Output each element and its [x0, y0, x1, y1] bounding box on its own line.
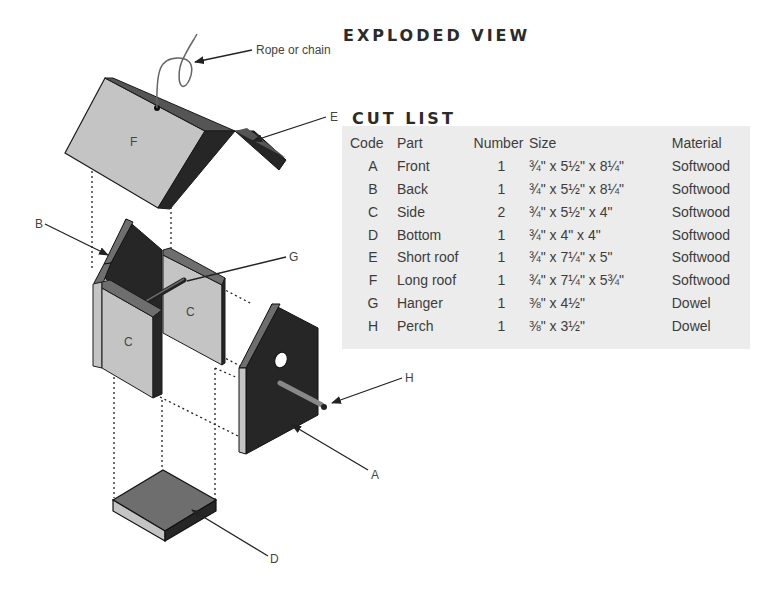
cell-code: E [350, 246, 396, 269]
cell-part: Back [396, 178, 474, 201]
cell-number: 2 [474, 200, 529, 223]
bottom-panel-D [113, 470, 216, 541]
header-code: Code [350, 132, 396, 155]
callout-A: A [371, 468, 379, 482]
header-size: Size [529, 132, 672, 155]
cut-list-table: Code Part Number Size Material A Front 1… [350, 132, 750, 337]
part-label-F: F [130, 135, 137, 149]
table-row: E Short roof 1 ¾" x 7¼" x 5" Softwood [350, 246, 750, 269]
part-label-C-back: C [186, 305, 195, 319]
cell-material: Dowel [672, 292, 750, 315]
cell-number: 1 [474, 269, 529, 292]
cell-size: ⅜" x 3½" [529, 314, 672, 337]
cell-number: 1 [474, 223, 529, 246]
side-panel-C-back: C [163, 248, 225, 365]
cell-code: D [350, 223, 396, 246]
cell-size: ¾" x 5½" x 4" [529, 200, 672, 223]
cell-code: F [350, 269, 396, 292]
cell-material: Softwood [672, 178, 750, 201]
cell-number: 1 [474, 292, 529, 315]
cell-code: H [350, 314, 396, 337]
cell-material: Softwood [672, 246, 750, 269]
cell-number: 1 [474, 314, 529, 337]
callout-rope: Rope or chain [256, 43, 331, 57]
table-row: B Back 1 ¾" x 5½" x 8¼" Softwood [350, 178, 750, 201]
table-row: G Hanger 1 ⅜" x 4½" Dowel [350, 292, 750, 315]
cell-material: Softwood [672, 223, 750, 246]
cell-material: Softwood [672, 155, 750, 178]
cell-part: Long roof [396, 269, 474, 292]
cut-list-table-container: Code Part Number Size Material A Front 1… [342, 126, 750, 349]
cell-part: Side [396, 200, 474, 223]
table-row: C Side 2 ¾" x 5½" x 4" Softwood [350, 200, 750, 223]
table-row: D Bottom 1 ¾" x 4" x 4" Softwood [350, 223, 750, 246]
cell-code: C [350, 200, 396, 223]
cell-material: Softwood [672, 200, 750, 223]
cell-size: ¾" x 7¼" x 5¾" [529, 269, 672, 292]
cell-code: A [350, 155, 396, 178]
header-material: Material [672, 132, 750, 155]
cell-code: G [350, 292, 396, 315]
table-row: H Perch 1 ⅜" x 3½" Dowel [350, 314, 750, 337]
cell-size: ¾" x 5½" x 8¼" [529, 178, 672, 201]
header-number: Number [474, 132, 529, 155]
rope-icon [157, 34, 197, 108]
cell-part: Hanger [396, 292, 474, 315]
callout-B: B [35, 217, 43, 231]
front-panel-A [239, 304, 327, 454]
cell-part: Front [396, 155, 474, 178]
cell-size: ¾" x 4" x 4" [529, 223, 672, 246]
cell-number: 1 [474, 246, 529, 269]
long-roof-F: F [65, 78, 235, 209]
callout-G: G [289, 250, 298, 264]
callout-D: D [270, 552, 279, 566]
cell-part: Bottom [396, 223, 474, 246]
cell-size: ¾" x 5½" x 8¼" [529, 155, 672, 178]
header-part: Part [396, 132, 474, 155]
part-label-C-front: C [124, 335, 133, 349]
cell-code: B [350, 178, 396, 201]
cell-size: ¾" x 7¼" x 5" [529, 246, 672, 269]
cell-number: 1 [474, 155, 529, 178]
cell-material: Softwood [672, 269, 750, 292]
cell-number: 1 [474, 178, 529, 201]
cell-part: Perch [396, 314, 474, 337]
cell-size: ⅜" x 4½" [529, 292, 672, 315]
table-row: A Front 1 ¾" x 5½" x 8¼" Softwood [350, 155, 750, 178]
exploded-view-title: EXPLODED VIEW [343, 26, 530, 45]
cell-material: Dowel [672, 314, 750, 337]
cell-part: Short roof [396, 246, 474, 269]
short-roof-E [235, 128, 286, 170]
callout-H: H [405, 371, 414, 385]
table-header-row: Code Part Number Size Material [350, 132, 750, 155]
callout-E: E [330, 110, 338, 124]
table-row: F Long roof 1 ¾" x 7¼" x 5¾" Softwood [350, 269, 750, 292]
